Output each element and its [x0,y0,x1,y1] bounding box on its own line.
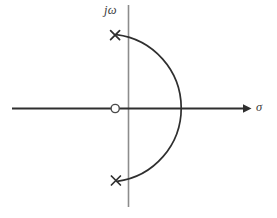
root-locus-figure: jω σ [0,0,277,218]
plot-canvas [0,0,277,218]
real-axis-label: σ [256,101,262,114]
real-axis-arrowhead-icon [243,104,252,113]
zero-marker-open-circle-icon [111,104,119,112]
imaginary-axis-label: jω [104,4,117,17]
